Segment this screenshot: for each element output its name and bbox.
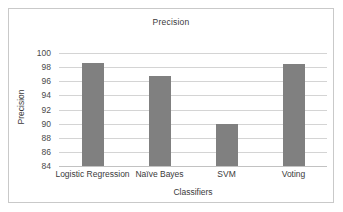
y-axis-tick: 84 bbox=[42, 161, 51, 171]
bar bbox=[283, 64, 305, 166]
x-axis-tick: SVM bbox=[217, 169, 235, 179]
y-axis-tick: 96 bbox=[42, 76, 51, 86]
y-axis-tick: 88 bbox=[42, 133, 51, 143]
x-axis-label: Classifiers bbox=[59, 187, 327, 197]
x-axis-tick: Logistic Regression bbox=[55, 169, 129, 179]
y-axis-tick-labels: 8486889092949698100 bbox=[9, 53, 55, 166]
bar bbox=[82, 63, 104, 166]
chart-screenshot: Precision Precision 8486889092949698100 … bbox=[0, 0, 343, 212]
y-axis-tick: 86 bbox=[42, 147, 51, 157]
y-axis-tick: 100 bbox=[37, 48, 51, 58]
bar-series bbox=[59, 53, 327, 166]
chart-title: Precision bbox=[9, 17, 333, 27]
y-axis-tick: 92 bbox=[42, 105, 51, 115]
bar bbox=[149, 76, 171, 166]
y-axis-tick: 98 bbox=[42, 62, 51, 72]
plot-area bbox=[59, 53, 327, 166]
y-axis-tick: 94 bbox=[42, 90, 51, 100]
y-axis-tick: 90 bbox=[42, 119, 51, 129]
chart-frame: Precision Precision 8486889092949698100 … bbox=[8, 8, 334, 203]
x-axis-tick: Voting bbox=[282, 169, 306, 179]
bar bbox=[216, 124, 238, 166]
gridline bbox=[59, 166, 327, 167]
x-axis-tick-labels: Logistic RegressionNaïve BayesSVMVoting bbox=[59, 169, 327, 183]
x-axis-tick: Naïve Bayes bbox=[135, 169, 183, 179]
